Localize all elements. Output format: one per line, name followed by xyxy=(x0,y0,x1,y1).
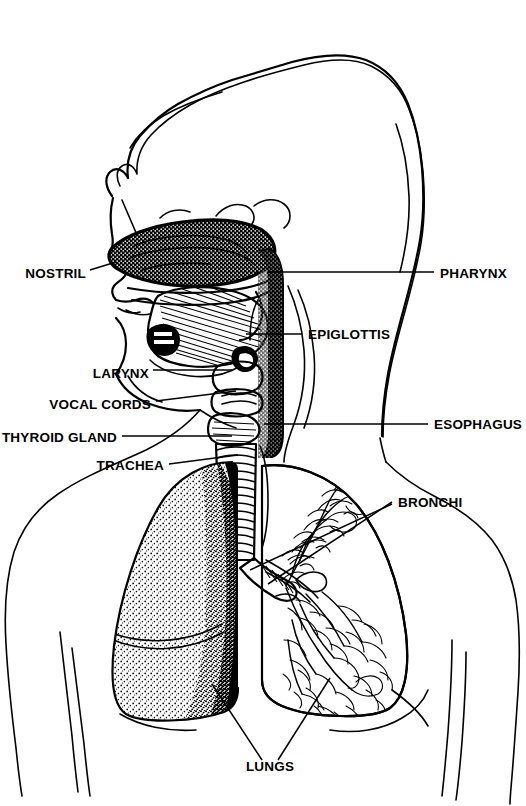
diagram-page: NOSTRIL LARYNX VOCAL CORDS THYROID GLAND… xyxy=(0,0,526,806)
label-pharynx: PHARYNX xyxy=(440,266,507,281)
label-lungs: LUNGS xyxy=(246,759,294,774)
label-nostril: NOSTRIL xyxy=(25,266,86,281)
label-epiglottis: EPIGLOTTIS xyxy=(308,327,390,342)
label-bronchi: BRONCHI xyxy=(398,495,462,510)
label-trachea: TRACHEA xyxy=(97,458,164,473)
label-thyroid-gland: THYROID GLAND xyxy=(2,430,117,445)
label-esophagus: ESOPHAGUS xyxy=(434,417,522,432)
label-vocal-cords: VOCAL CORDS xyxy=(49,397,151,412)
label-larynx: LARYNX xyxy=(93,366,149,381)
respiratory-system-figure: NOSTRIL LARYNX VOCAL CORDS THYROID GLAND… xyxy=(0,0,526,806)
